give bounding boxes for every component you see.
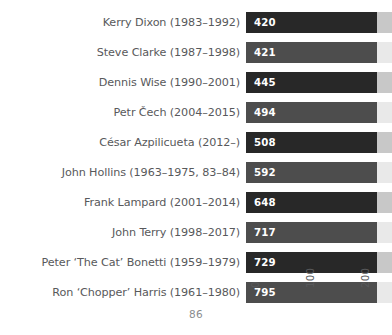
bar[interactable]: 494 <box>246 102 377 123</box>
chart-row: 729Peter ‘The Cat’ Bonetti (1959–1979) <box>0 252 392 273</box>
chart-row: 648Frank Lampard (2001–2014) <box>0 192 392 213</box>
bar[interactable]: 592 <box>246 162 377 183</box>
bar[interactable]: 420 <box>246 12 377 33</box>
category-label: John Terry (1998–2017) <box>112 222 240 243</box>
category-label: Frank Lampard (2001–2014) <box>84 192 240 213</box>
x-axis-tick-label: 200 <box>360 268 371 288</box>
x-axis-tick-label: 0 <box>250 281 261 288</box>
bar-chart: 420Kerry Dixon (1983–1992)421Steve Clark… <box>0 0 392 292</box>
bar-value-label: 648 <box>254 192 276 213</box>
chart-row: 508César Azpilicueta (2012–) <box>0 132 392 153</box>
bar-value-label: 421 <box>254 42 276 63</box>
bar-value-label: 420 <box>254 12 276 33</box>
category-label: Peter ‘The Cat’ Bonetti (1959–1979) <box>42 252 240 273</box>
bar-value-label: 508 <box>254 132 276 153</box>
bar-value-label: 729 <box>254 252 276 273</box>
chart-row: 717John Terry (1998–2017) <box>0 222 392 243</box>
chart-row: 592John Hollins (1963–1975, 83–84) <box>0 162 392 183</box>
category-label: Steve Clarke (1987–1998) <box>97 42 240 63</box>
x-axis-tick-label: 100 <box>305 268 316 288</box>
category-label: César Azpilicueta (2012–) <box>99 132 240 153</box>
chart-row: 445Dennis Wise (1990–2001) <box>0 72 392 93</box>
bar-value-label: 592 <box>254 162 276 183</box>
category-label: John Hollins (1963–1975, 83–84) <box>62 162 240 183</box>
category-label: Dennis Wise (1990–2001) <box>99 72 240 93</box>
chart-row: 421Steve Clarke (1987–1998) <box>0 42 392 63</box>
chart-page: 420Kerry Dixon (1983–1992)421Steve Clark… <box>0 0 392 335</box>
bar-value-label: 717 <box>254 222 276 243</box>
category-label: Kerry Dixon (1983–1992) <box>103 12 240 33</box>
bar-value-label: 494 <box>254 102 276 123</box>
bar[interactable]: 445 <box>246 72 377 93</box>
category-label: Petr Čech (2004–2015) <box>114 102 240 123</box>
bar[interactable]: 421 <box>246 42 377 63</box>
bar[interactable]: 508 <box>246 132 377 153</box>
chart-row: 420Kerry Dixon (1983–1992) <box>0 12 392 33</box>
bar[interactable]: 648 <box>246 192 377 213</box>
bar[interactable]: 717 <box>246 222 377 243</box>
page-number: 86 <box>0 308 392 320</box>
chart-row: 494Petr Čech (2004–2015) <box>0 102 392 123</box>
bar-value-label: 445 <box>254 72 276 93</box>
